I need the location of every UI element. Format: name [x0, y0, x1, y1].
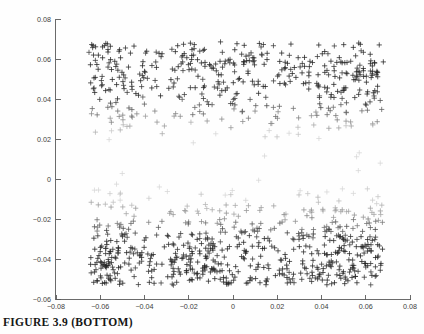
data-point: [219, 72, 224, 77]
data-point: [242, 256, 247, 261]
data-point: [288, 41, 293, 46]
data-point: [93, 130, 98, 135]
data-point: [256, 178, 261, 183]
data-point: [354, 244, 359, 249]
data-point: [222, 255, 227, 260]
data-point: [320, 277, 325, 282]
data-point: [109, 120, 114, 125]
data-point: [351, 217, 356, 222]
data-point: [342, 249, 347, 254]
data-point: [136, 282, 141, 287]
data-point: [277, 59, 282, 64]
data-point: [320, 51, 325, 56]
data-point: [293, 219, 298, 224]
data-point: [254, 234, 259, 239]
data-point: [103, 202, 108, 207]
data-point: [364, 102, 369, 107]
data-point: [175, 43, 180, 48]
data-point: [344, 71, 349, 76]
data-point: [190, 232, 195, 237]
data-point: [310, 263, 315, 268]
data-point: [109, 128, 114, 133]
data-point: [250, 244, 255, 249]
data-point: [218, 239, 223, 244]
data-point: [352, 95, 357, 100]
data-point: [98, 249, 103, 254]
data-point: [127, 256, 132, 261]
data-point: [344, 224, 349, 229]
data-point: [88, 262, 93, 267]
data-point: [250, 256, 255, 261]
data-point: [118, 55, 123, 60]
data-point: [349, 275, 354, 280]
data-point: [315, 195, 320, 200]
data-point: [193, 245, 198, 250]
data-point: [105, 64, 110, 69]
data-point: [232, 47, 237, 52]
x-tick-label: 0: [231, 302, 235, 311]
data-point: [305, 191, 310, 196]
data-point: [336, 198, 341, 203]
data-point: [364, 80, 369, 85]
data-point: [234, 91, 239, 96]
data-point: [366, 216, 371, 221]
data-point: [154, 50, 159, 55]
data-point: [116, 245, 121, 250]
data-point: [220, 50, 225, 55]
data-point: [355, 223, 360, 228]
data-point: [310, 60, 315, 65]
x-tick-label: −0.06: [91, 302, 109, 311]
data-point: [166, 242, 171, 247]
data-point: [149, 63, 154, 68]
x-tick-label: −0.04: [135, 302, 153, 311]
data-point: [331, 215, 336, 220]
data-point: [195, 275, 200, 280]
data-point: [318, 105, 323, 110]
data-point: [197, 248, 202, 253]
x-tick-label: −0.08: [47, 302, 65, 311]
data-point: [351, 45, 356, 50]
data-point: [188, 85, 193, 90]
data-point: [379, 203, 384, 208]
data-point: [166, 86, 171, 91]
data-point: [171, 283, 176, 288]
data-point: [360, 229, 365, 234]
data-point: [199, 192, 204, 197]
data-point: [283, 60, 288, 65]
data-point: [256, 91, 261, 96]
data-point: [120, 171, 125, 176]
data-point: [224, 275, 229, 280]
data-point: [248, 263, 253, 268]
data-point: [277, 81, 282, 86]
data-point: [317, 101, 322, 106]
data-point: [121, 83, 126, 88]
data-point: [171, 84, 176, 89]
data-point: [233, 220, 238, 225]
data-point: [340, 60, 345, 65]
x-tick-label: 0.08: [403, 302, 417, 311]
data-point: [271, 43, 276, 48]
data-point: [146, 220, 151, 225]
data-point: [337, 273, 342, 278]
data-point: [231, 278, 236, 283]
data-point: [355, 252, 360, 257]
data-point: [197, 231, 202, 236]
data-point: [322, 225, 327, 230]
data-point: [95, 228, 100, 233]
data-point: [93, 75, 98, 80]
data-point: [336, 125, 341, 130]
data-point: [316, 200, 321, 205]
data-point: [108, 116, 113, 121]
data-point: [115, 271, 120, 276]
data-point: [259, 205, 264, 210]
data-point: [370, 238, 375, 243]
data-point: [156, 225, 161, 230]
data-point: [296, 237, 301, 242]
data-point: [119, 231, 124, 236]
data-point: [120, 204, 125, 209]
data-point: [193, 67, 198, 72]
data-point: [92, 247, 97, 252]
data-point: [100, 281, 105, 286]
data-point: [176, 64, 181, 69]
data-point: [264, 103, 269, 108]
